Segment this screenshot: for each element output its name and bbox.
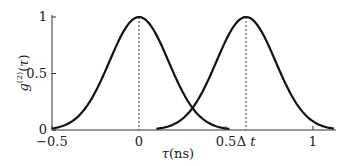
x-tick-label: 0 — [135, 134, 143, 149]
gaussian-curves — [52, 17, 334, 129]
curve-1 — [156, 17, 333, 129]
x-tick-label: 0.5 — [216, 134, 237, 149]
x-tick-label: 1 — [309, 134, 317, 149]
g2-chart: −0.500.5Δ t1 00.51 τ(ns) g(2)(τ) — [0, 0, 351, 166]
x-axis-label: τ(ns) — [162, 146, 194, 161]
y-tick-label: 1 — [39, 9, 47, 24]
curve-0 — [52, 17, 229, 129]
y-tick-label: 0 — [39, 122, 47, 137]
x-tick-label: Δ t — [237, 134, 257, 149]
